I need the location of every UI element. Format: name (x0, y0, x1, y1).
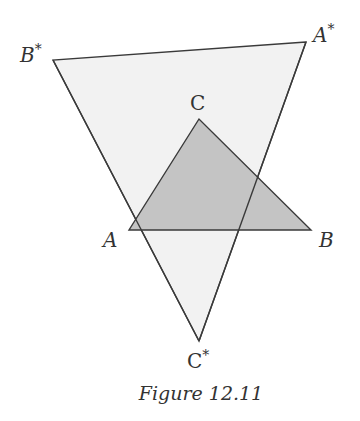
label-c-star: C* (187, 347, 209, 373)
label-b-star: B* (19, 41, 42, 67)
label-a-star: A* (311, 21, 334, 47)
label-c: C (190, 91, 205, 115)
label-b: B (318, 228, 334, 252)
figure-caption: Figure 12.11 (138, 382, 263, 404)
figure-canvas: B* A* C A B C* Figure 12.11 (0, 0, 360, 421)
label-a: A (101, 228, 117, 252)
